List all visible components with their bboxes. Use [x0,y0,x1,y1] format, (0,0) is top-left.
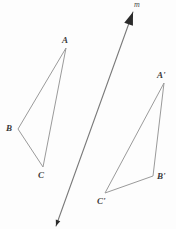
geometry-diagram: A B C A' B' C' m [0,0,176,229]
vertex-label-b-prime: B' [157,172,166,181]
triangle-a-prime-b-prime-c-prime-outline [105,83,164,193]
triangle-abc-group [18,48,66,167]
triangle-a-prime-group [105,83,164,193]
vertex-label-c: C [38,171,44,180]
vertex-label-c-prime: C' [97,197,106,206]
mirror-line-arrowhead-top [124,12,133,26]
diagram-canvas [0,0,176,229]
triangle-abc-outline [18,48,66,167]
vertex-label-a: A [62,36,68,45]
mirror-line-arrowhead-bottom [56,220,61,226]
vertex-label-a-prime: A' [157,71,166,80]
vertex-label-b: B [6,124,12,133]
mirror-line-label-m: m [134,1,140,9]
